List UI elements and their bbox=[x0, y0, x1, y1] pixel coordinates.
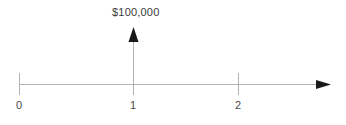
tick-label-0: 0 bbox=[9, 99, 29, 111]
tick-label-1: 1 bbox=[123, 99, 143, 111]
cashflow-amount-label: $100,000 bbox=[112, 6, 159, 18]
time-axis-arrowhead-icon bbox=[316, 80, 331, 89]
cashflow-arrowhead-icon bbox=[129, 27, 139, 42]
timeline-graphic bbox=[0, 0, 346, 125]
tick-label-2: 2 bbox=[228, 99, 248, 111]
cash-flow-timeline-figure: $100,000 0 1 2 bbox=[0, 0, 346, 125]
